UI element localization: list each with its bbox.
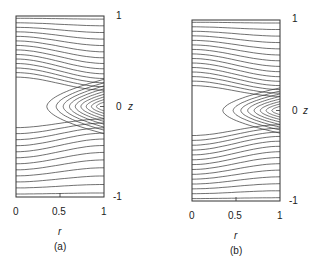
z-tick-top: 1 bbox=[116, 11, 122, 21]
z-tick-bottom: -1 bbox=[289, 196, 298, 206]
z-tick-zero: 0 bbox=[116, 102, 122, 112]
r-tick-1: 1 bbox=[101, 207, 107, 217]
z-axis-label: z bbox=[303, 106, 308, 116]
z-tick-bottom: -1 bbox=[113, 192, 122, 202]
panel-caption: (a) bbox=[54, 242, 66, 252]
r-tick-05: 0.5 bbox=[228, 211, 242, 221]
panel-a-frame bbox=[16, 16, 104, 197]
r-axis-label: r bbox=[58, 227, 61, 237]
z-axis-label: z bbox=[128, 102, 133, 112]
panel-caption: (b) bbox=[230, 246, 242, 256]
r-tick-05: 0.5 bbox=[52, 207, 66, 217]
panel-b-contours bbox=[192, 20, 280, 201]
z-tick-zero: 0 bbox=[292, 106, 298, 116]
r-tick-0: 0 bbox=[13, 207, 19, 217]
z-tick-top: 1 bbox=[292, 14, 298, 24]
r-axis-label: r bbox=[234, 231, 237, 241]
r-tick-0: 0 bbox=[189, 211, 195, 221]
r-tick-1: 1 bbox=[277, 211, 283, 221]
panel-a-contours bbox=[16, 16, 104, 197]
contour-plots bbox=[0, 0, 319, 268]
